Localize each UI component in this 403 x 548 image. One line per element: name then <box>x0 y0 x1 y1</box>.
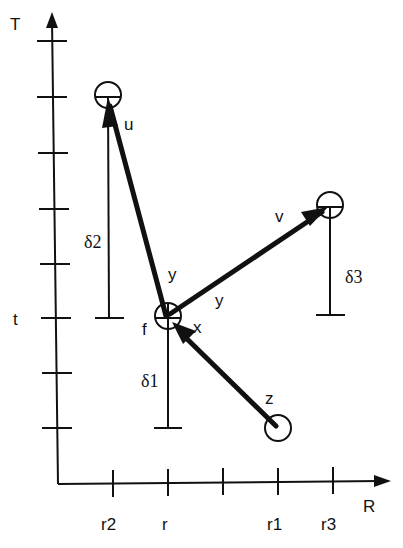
node-label-z: z <box>265 389 274 408</box>
x-tick-label-r2: r2 <box>101 515 116 534</box>
nodes <box>95 82 343 441</box>
edge-f-to-v <box>170 212 322 314</box>
diagram-svg: T R t r2 r r1 r3 δ2 δ1 δ3 y y x <box>0 0 403 548</box>
x-tick-label-r3: r3 <box>321 515 336 534</box>
arrowhead-u-icon <box>102 97 118 128</box>
delta1-label: δ1 <box>141 371 158 391</box>
x-axis-label: R <box>363 497 375 516</box>
x-axis-arrow-icon <box>374 475 391 487</box>
y-tick-label-t: t <box>13 310 18 329</box>
delta3-label: δ3 <box>345 267 362 287</box>
node-label-u: u <box>124 115 133 134</box>
y-axis-arrow-icon <box>46 12 58 28</box>
node-f <box>155 303 181 329</box>
delta-bars <box>95 97 345 428</box>
edge-z-to-f <box>180 332 276 426</box>
edge-f-to-u <box>110 106 166 316</box>
x-tick-label-r: r <box>162 515 168 534</box>
edge-label-x: x <box>193 318 202 337</box>
node-label-v: v <box>275 207 284 226</box>
edge-label-y-upper: y <box>168 265 177 284</box>
diagram-canvas: T R t r2 r r1 r3 δ2 δ1 δ3 y y x <box>0 0 403 548</box>
edge-label-y-right: y <box>215 291 224 310</box>
x-axis <box>58 467 391 497</box>
node-label-f: f <box>142 320 147 339</box>
node-z <box>265 415 291 441</box>
delta2-label: δ2 <box>84 232 101 252</box>
x-tick-label-r1: r1 <box>267 515 282 534</box>
y-axis <box>37 12 72 484</box>
y-axis-label: T <box>10 15 20 34</box>
